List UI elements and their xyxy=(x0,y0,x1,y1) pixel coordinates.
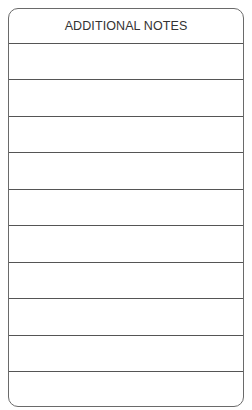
notes-line-7[interactable] xyxy=(9,262,243,263)
notes-line-2[interactable] xyxy=(9,79,243,80)
notes-line-8[interactable] xyxy=(9,298,243,299)
notes-line-5[interactable] xyxy=(9,189,243,190)
notes-line-6[interactable] xyxy=(9,225,243,226)
notes-line-1[interactable] xyxy=(9,43,243,44)
notes-line-3[interactable] xyxy=(9,116,243,117)
notes-line-4[interactable] xyxy=(9,152,243,153)
notes-line-10[interactable] xyxy=(9,371,243,372)
notes-line-9[interactable] xyxy=(9,335,243,336)
notes-title: ADDITIONAL NOTES xyxy=(9,9,243,43)
notes-card: ADDITIONAL NOTES xyxy=(8,8,244,407)
